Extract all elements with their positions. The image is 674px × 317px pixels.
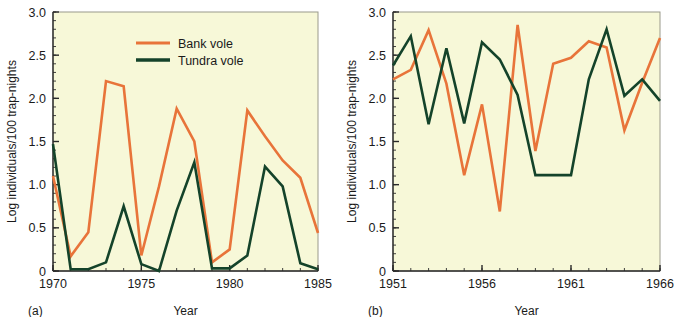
plot-background bbox=[53, 12, 318, 271]
chart-a-canvas: 00.51.01.52.02.53.01970197519801985YearL… bbox=[0, 0, 340, 317]
y-axis-tick-label: 1.5 bbox=[369, 135, 386, 149]
chart-panel-a: 00.51.01.52.02.53.01970197519801985YearL… bbox=[0, 0, 340, 317]
y-axis-tick-label: 3.0 bbox=[29, 6, 46, 20]
legend-label-bank-vole: Bank vole bbox=[178, 37, 233, 51]
x-axis-tick-label: 1966 bbox=[646, 277, 674, 291]
panel-label: (a) bbox=[28, 304, 43, 317]
y-axis-title: Log individuals/100 trap-nights bbox=[5, 60, 19, 223]
y-axis-tick-label: 1.5 bbox=[29, 135, 46, 149]
x-axis-tick-label: 1970 bbox=[39, 277, 67, 291]
legend-label-tundra-vole: Tundra vole bbox=[178, 54, 244, 68]
y-axis-tick-label: 0.5 bbox=[369, 221, 386, 235]
figure-root: 00.51.01.52.02.53.01970197519801985YearL… bbox=[0, 0, 674, 317]
chart-panel-b: 00.51.01.52.02.53.01951195619611966YearL… bbox=[340, 0, 674, 317]
panel-label: (b) bbox=[368, 304, 383, 317]
chart-b-canvas: 00.51.01.52.02.53.01951195619611966YearL… bbox=[340, 0, 674, 317]
y-axis-title: Log individuals/100 trap-nights bbox=[345, 60, 359, 223]
y-axis-tick-label: 2.0 bbox=[29, 92, 46, 106]
x-axis-tick-label: 1956 bbox=[468, 277, 496, 291]
x-axis-tick-label: 1975 bbox=[127, 277, 155, 291]
y-axis-tick-label: 2.5 bbox=[369, 49, 386, 63]
y-axis-tick-label: 2.0 bbox=[369, 92, 386, 106]
y-axis-tick-label: 1.0 bbox=[29, 178, 46, 192]
x-axis-tick-label: 1951 bbox=[379, 277, 407, 291]
y-axis-tick-label: 1.0 bbox=[369, 178, 386, 192]
y-axis-tick-label: 0.5 bbox=[29, 221, 46, 235]
x-axis-tick-label: 1985 bbox=[304, 277, 332, 291]
x-axis-title: Year bbox=[514, 304, 538, 317]
x-axis-tick-label: 1961 bbox=[557, 277, 585, 291]
y-axis-tick-label: 3.0 bbox=[369, 6, 386, 20]
y-axis-tick-label: 2.5 bbox=[29, 49, 46, 63]
x-axis-tick-label: 1980 bbox=[216, 277, 244, 291]
x-axis-title: Year bbox=[173, 304, 197, 317]
plot-background bbox=[393, 12, 660, 271]
